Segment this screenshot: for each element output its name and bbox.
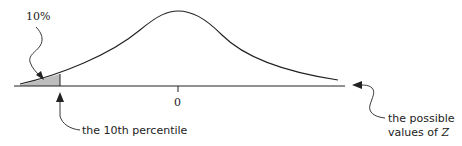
percent-label: 10% xyxy=(26,10,50,23)
possible-values-label-line2: values of Z xyxy=(388,126,449,139)
values-callout-line xyxy=(360,85,385,118)
percent-callout-line xyxy=(30,27,42,76)
percentile-arrowhead-icon xyxy=(56,92,64,102)
zero-tick-label: 0 xyxy=(174,96,181,109)
percentile-label: the 10th percentile xyxy=(82,124,187,137)
values-arrowhead-icon xyxy=(352,81,362,89)
variable-z: Z xyxy=(441,126,449,139)
diagram: 10% 0 the 10th percentile the possible v… xyxy=(0,0,462,146)
percentile-callout-line xyxy=(60,100,80,130)
density-curve xyxy=(20,11,338,84)
possible-values-label-line1: the possible xyxy=(388,112,455,125)
possible-values-prefix: values of xyxy=(388,126,441,139)
